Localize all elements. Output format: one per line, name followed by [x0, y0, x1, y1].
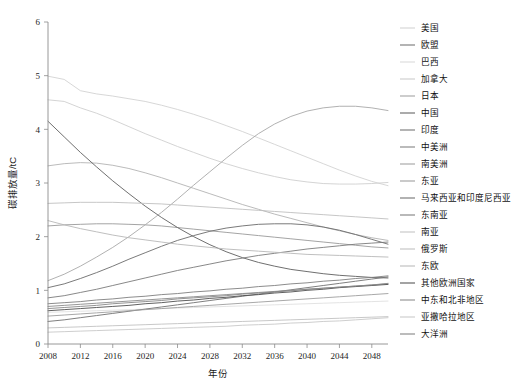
- series-line-欧盟: [48, 224, 388, 248]
- legend-label-中东和北非地区[interactable]: 中东和北非地区: [421, 294, 484, 305]
- legend-label-中国[interactable]: 中国: [421, 107, 439, 118]
- y-tick-label: 5: [36, 71, 41, 81]
- legend-label-美国[interactable]: 美国: [421, 22, 439, 33]
- x-tick-label: 2040: [298, 351, 317, 361]
- legend-label-欧盟[interactable]: 欧盟: [421, 39, 439, 50]
- y-ticks-group: 0123456: [36, 17, 49, 349]
- x-tick-label: 2012: [71, 351, 89, 361]
- x-tick-label: 2020: [136, 351, 155, 361]
- x-tick-label: 2016: [104, 351, 123, 361]
- series-line-东南亚: [48, 242, 388, 298]
- x-ticks-group: 2008201220162020202420282032203620402044…: [39, 344, 381, 361]
- legend-label-东欧[interactable]: 东欧: [421, 260, 439, 271]
- x-tick-label: 2044: [330, 351, 349, 361]
- x-tick-label: 2032: [233, 351, 251, 361]
- series-line-东欧: [48, 221, 388, 257]
- legend-label-其他欧洲国家[interactable]: 其他欧洲国家: [421, 277, 475, 288]
- x-axis-title: 年份: [208, 368, 228, 379]
- x-tick-label: 2024: [169, 351, 188, 361]
- chart-container: 0123456 20082012201620202024202820322036…: [0, 0, 531, 391]
- x-tick-label: 2008: [39, 351, 58, 361]
- legend-label-巴西[interactable]: 巴西: [421, 57, 439, 67]
- legend-label-南亚[interactable]: 南亚: [421, 226, 439, 237]
- line-chart-svg: 0123456 20082012201620202024202820322036…: [0, 0, 531, 391]
- series-line-俄罗斯: [48, 202, 388, 219]
- legend-label-东南亚[interactable]: 东南亚: [421, 209, 448, 220]
- series-line-印度: [48, 277, 388, 322]
- legend-label-南美洲[interactable]: 南美洲: [421, 158, 448, 169]
- legend-label-中美洲[interactable]: 中美洲: [421, 141, 448, 152]
- legend: 美国欧盟巴西加拿大日本中国印度中美洲南美洲东亚马来西亚和印度尼西亚东南亚南亚俄罗…: [400, 22, 511, 339]
- y-tick-label: 2: [36, 232, 41, 242]
- y-tick-label: 0: [36, 339, 41, 349]
- x-tick-label: 2028: [201, 351, 220, 361]
- legend-label-亚撒哈拉地区[interactable]: 亚撒哈拉地区: [421, 311, 475, 322]
- series-line-日本: [48, 163, 388, 241]
- legend-label-印度[interactable]: 印度: [421, 124, 439, 135]
- legend-label-马来西亚和印度尼西亚[interactable]: 马来西亚和印度尼西亚: [421, 192, 511, 203]
- series-line-东亚: [48, 106, 388, 280]
- legend-label-东亚[interactable]: 东亚: [421, 175, 439, 186]
- legend-label-俄罗斯[interactable]: 俄罗斯: [421, 243, 448, 254]
- series-line-加拿大: [48, 100, 388, 184]
- legend-label-加拿大[interactable]: 加拿大: [421, 73, 448, 84]
- legend-label-大洋洲[interactable]: 大洋洲: [421, 328, 448, 339]
- y-tick-label: 4: [36, 125, 41, 135]
- series-line-亚撒哈拉地区: [48, 318, 388, 332]
- y-axis-title: 碳排放量/tC: [7, 157, 18, 209]
- y-tick-label: 6: [36, 17, 41, 27]
- series-line-中国: [48, 121, 388, 278]
- y-tick-label: 3: [36, 178, 41, 188]
- axes-group: [48, 22, 388, 344]
- x-tick-label: 2048: [363, 351, 382, 361]
- legend-label-日本[interactable]: 日本: [421, 90, 439, 101]
- x-tick-label: 2036: [266, 351, 285, 361]
- y-tick-label: 1: [36, 286, 41, 296]
- series-group: [48, 76, 388, 332]
